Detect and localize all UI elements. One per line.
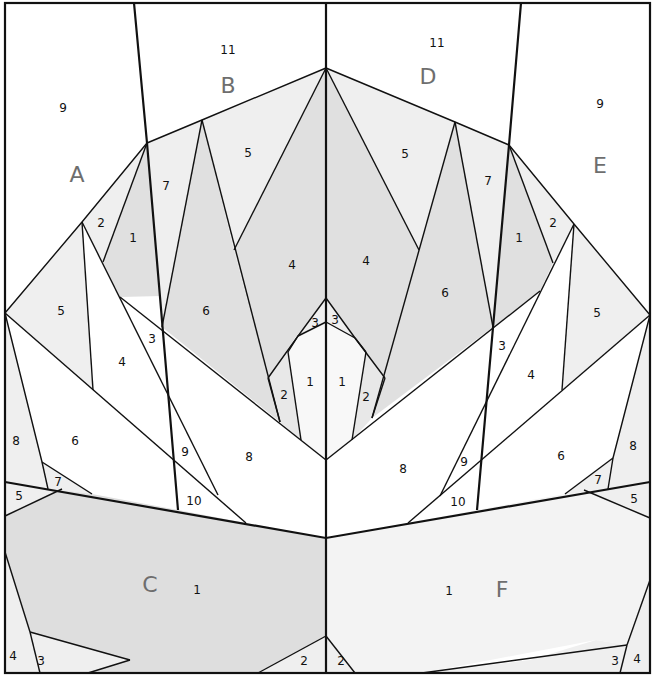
piece-number: 6 [441,286,449,300]
piece-number: 5 [401,147,409,161]
piece-number: 4 [527,368,535,382]
piece-number: 9 [59,101,67,115]
piece-number: 5 [15,489,23,503]
piece-number: 8 [245,450,253,464]
piece-number: 6 [557,449,565,463]
piece-number: 5 [630,492,638,506]
piece-number: 11 [429,36,444,50]
quilt-pattern-diagram: ABCDEF9215438675117564321981014321157463… [0,0,652,688]
piece-number: 7 [54,475,62,489]
section-label-b: B [220,73,235,98]
section-label-a: A [69,162,84,187]
piece-number: 2 [97,216,105,230]
piece-number: 1 [445,584,453,598]
piece-number: 8 [12,434,20,448]
piece-number: 10 [186,494,201,508]
piece-number: 7 [594,473,602,487]
piece-number: 5 [57,304,65,318]
piece-number: 8 [629,439,637,453]
piece-number: 8 [399,462,407,476]
piece-number: 9 [181,445,189,459]
piece-number: 3 [331,313,339,327]
piece-number: 5 [244,146,252,160]
piece-number: 3 [37,654,45,668]
piece-number: 6 [71,434,79,448]
piece-number: 3 [611,654,619,668]
section-label-f: F [496,577,509,602]
piece-number: 4 [633,652,641,666]
piece-number: 2 [362,390,370,404]
piece-number: 4 [9,649,17,663]
section-label-e: E [593,153,607,178]
piece-number: 7 [162,179,170,193]
piece-number: 2 [300,654,308,668]
piece-number: 11 [220,43,235,57]
piece-number: 3 [148,332,156,346]
piece-number: 3 [311,316,319,330]
piece-number: 4 [362,254,370,268]
piece-number: 9 [460,455,468,469]
section-label-d: D [420,64,437,89]
piece-number: 3 [498,339,506,353]
piece-number: 4 [288,258,296,272]
piece-number: 4 [118,355,126,369]
piece-number: 2 [280,388,288,402]
piece-number: 1 [306,375,314,389]
piece-fills [5,68,650,673]
piece-number: 1 [129,231,137,245]
piece-number: 1 [515,231,523,245]
piece-number: 7 [484,174,492,188]
piece-number: 2 [337,654,345,668]
piece-number: 10 [450,495,465,509]
piece-number: 1 [338,375,346,389]
section-label-c: C [142,572,157,597]
piece-number: 6 [202,304,210,318]
piece-number: 2 [549,216,557,230]
piece-number: 1 [193,583,201,597]
pattern-drawing: ABCDEF9215438675117564321981014321157463… [0,0,652,688]
piece-number: 5 [593,306,601,320]
piece-number: 9 [596,97,604,111]
